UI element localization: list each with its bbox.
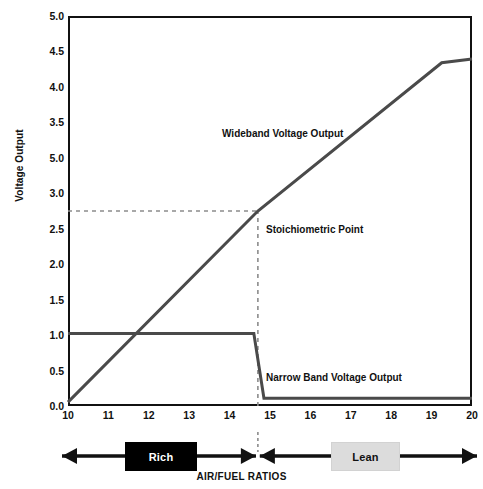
stoichiometric-point-label: Stoichiometric Point bbox=[266, 224, 363, 235]
zone-axis-arrowhead bbox=[462, 448, 477, 464]
x-tick-label: 19 bbox=[417, 409, 447, 421]
zone-axis-arrowhead bbox=[241, 448, 256, 464]
x-tick-label: 14 bbox=[215, 409, 245, 421]
x-axis-tick-labels: 1011121314151617181920 bbox=[0, 409, 483, 427]
x-tick-label: 12 bbox=[134, 409, 164, 421]
x-tick-label: 17 bbox=[336, 409, 366, 421]
narrowband-series-label: Narrow Band Voltage Output bbox=[266, 372, 402, 383]
wideband-series-label: Wideband Voltage Output bbox=[222, 128, 343, 139]
x-tick-label: 18 bbox=[376, 409, 406, 421]
x-tick-label: 10 bbox=[53, 409, 83, 421]
x-tick-label: 20 bbox=[457, 409, 483, 421]
x-axis-caption: AIR/FUEL RATIOS bbox=[0, 471, 483, 482]
x-tick-label: 16 bbox=[295, 409, 325, 421]
x-tick-label: 11 bbox=[93, 409, 123, 421]
zone-label-rich: Rich bbox=[125, 442, 197, 471]
x-tick-label: 15 bbox=[255, 409, 285, 421]
chart-root: Voltage Output 5.04.54.03.55.03.02.52.01… bbox=[0, 0, 483, 489]
x-tick-label: 13 bbox=[174, 409, 204, 421]
zone-label-lean: Lean bbox=[331, 442, 400, 471]
